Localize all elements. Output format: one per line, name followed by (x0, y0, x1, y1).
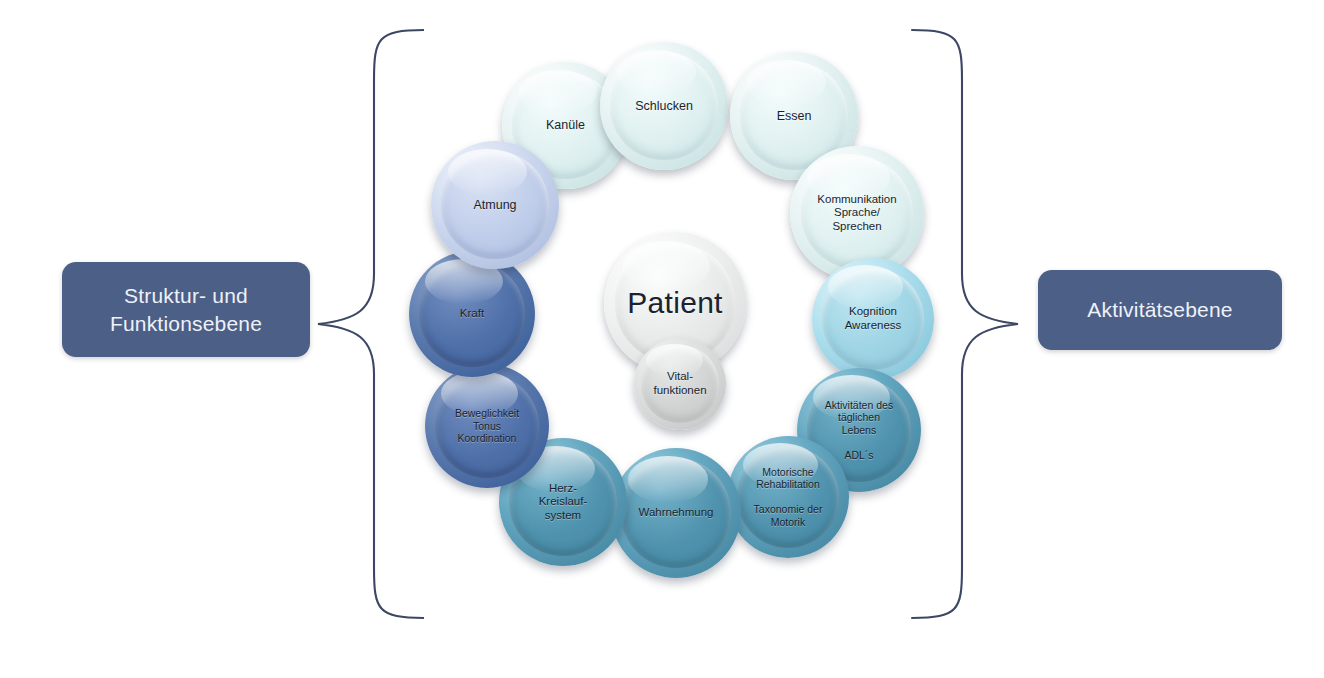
diagram-canvas: Struktur- und Funktionsebene Kanüle Schl… (0, 0, 1324, 678)
node-beweglichkeit[interactable]: Beweglichkeit Tonus Koordination (425, 364, 549, 488)
node-wahrnehmung[interactable]: Wahrnehmung (611, 448, 741, 578)
node-motorische-rehabilitation-label: Motorische Rehabilitation Taxonomie der … (750, 466, 827, 528)
node-vitalfunktionen-label: Vital- funktionen (649, 370, 710, 397)
node-essen-label: Essen (773, 109, 816, 124)
node-kommunikation-label: Kommunikation Sprache/ Sprechen (813, 193, 900, 234)
node-adl-label: Aktivitäten des täglichen Lebens ADL´s (821, 399, 897, 461)
left-brace-icon (312, 24, 424, 624)
node-kraft[interactable]: Kraft (409, 251, 535, 377)
right-brace-icon (906, 24, 1024, 624)
node-vitalfunktionen[interactable]: Vital- funktionen (634, 338, 726, 430)
node-herz-kreislaufsystem-label: Herz- Kreislauf- system (535, 482, 592, 523)
node-beweglichkeit-label: Beweglichkeit Tonus Koordination (451, 407, 523, 444)
node-schlucken[interactable]: Schlucken (600, 42, 728, 170)
node-atmung[interactable]: Atmung (431, 141, 559, 269)
node-wahrnehmung-label: Wahrnehmung (634, 506, 717, 520)
node-kraft-label: Kraft (456, 307, 488, 321)
level-label-structure-function[interactable]: Struktur- und Funktionsebene (62, 262, 310, 357)
level-label-activity[interactable]: Aktivitätsebene (1038, 270, 1282, 350)
node-kanuele-label: Kanüle (542, 118, 589, 133)
node-atmung-label: Atmung (469, 198, 520, 213)
node-kognition-label: Kognition Awareness (841, 305, 906, 332)
node-patient-label: Patient (623, 285, 727, 320)
node-schlucken-label: Schlucken (631, 99, 697, 114)
